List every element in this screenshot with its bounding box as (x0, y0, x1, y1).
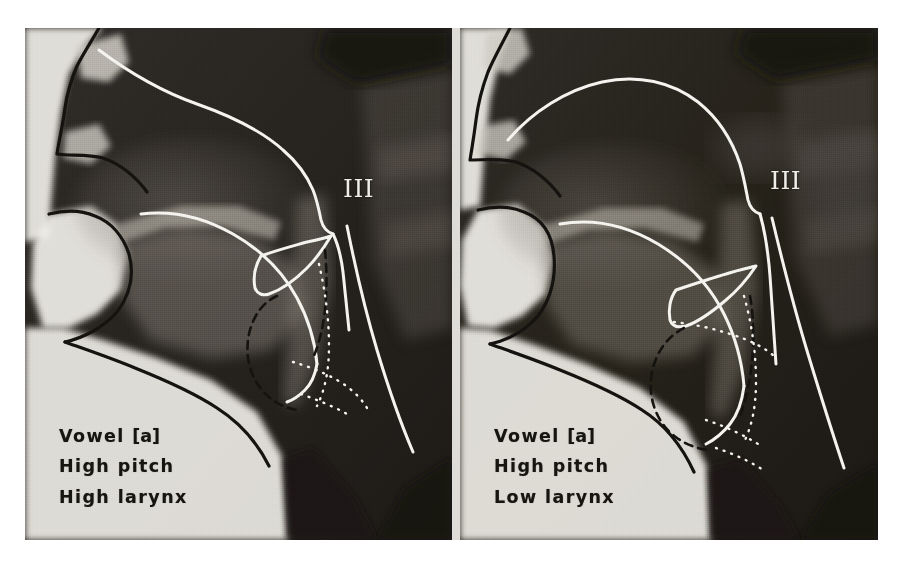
vertebra-marker-right: III (770, 168, 801, 193)
caption-vowel-word-right: Vowel (494, 426, 560, 446)
radiograph-plate: III Vowel [a] High pitch High larynx (25, 28, 878, 540)
radiograph-panel-left: III Vowel [a] High pitch High larynx (25, 28, 452, 540)
panel-divider (452, 28, 460, 540)
caption-line2-right: High pitch (494, 456, 609, 476)
xray-figure: III Vowel [a] High pitch High larynx (0, 0, 921, 564)
radiograph-panel-right: III Vowel [a] High pitch Low larynx (460, 28, 878, 540)
caption-line1-left: Vowel [a] (59, 426, 160, 446)
vertebra-marker-left: III (343, 176, 374, 201)
caption-line3-left: High larynx (59, 487, 188, 507)
caption-vowel-word-left: Vowel (59, 426, 125, 446)
caption-line3-right: Low larynx (494, 487, 615, 507)
caption-line2-left: High pitch (59, 456, 174, 476)
caption-vowel-symbol-right: [a] (567, 426, 595, 446)
caption-line1-right: Vowel [a] (494, 426, 595, 446)
caption-vowel-symbol-left: [a] (132, 426, 160, 446)
